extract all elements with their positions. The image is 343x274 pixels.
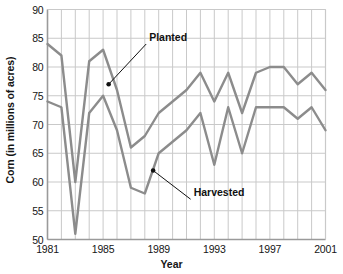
annotation-label-planted: Planted [149,31,187,43]
y-axis-tick-label: 90 [20,4,44,16]
x-axis-tick-label: 1989 [147,243,170,255]
y-axis-title: Corn (in millions of acres) [0,0,20,240]
chart-container: Corn (in millions of acres) 908580757065… [0,0,343,274]
x-axis-title: Year [0,258,343,270]
y-axis-tick-label: 65 [20,147,44,159]
x-axis-tick-label: 1997 [259,243,282,255]
x-axis-tick-label: 1993 [203,243,226,255]
y-axis-tick-label: 80 [20,61,44,73]
y-axis-tick-label: 75 [20,90,44,102]
annotation-label-harvested: Harvested [194,186,245,198]
y-axis-tick-label: 70 [20,119,44,131]
x-axis-tick-label: 2001 [314,243,337,255]
gridlines [48,10,326,240]
y-axis-tick-label: 55 [20,205,44,217]
x-axis-tick-label: 1981 [36,243,59,255]
annotation-point-planted [106,82,111,87]
y-axis-tick-label: 85 [20,32,44,44]
y-axis-title-text: Corn (in millions of acres) [4,57,16,184]
x-axis-tick-label: 1985 [92,243,115,255]
annotation-point-harvested [151,168,156,173]
annotation-leader-line-planted [109,44,147,84]
y-axis-tick-label: 60 [20,176,44,188]
